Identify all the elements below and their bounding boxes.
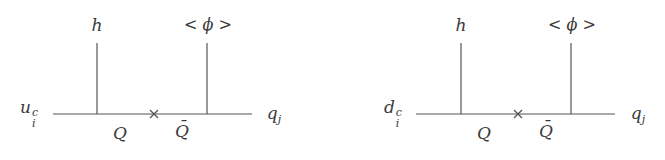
outgoing-base-2: q <box>631 103 642 123</box>
diagram-2-lines <box>416 43 615 118</box>
propagator-Q-1: Q <box>113 125 127 142</box>
vev-label-1: < ϕ > <box>184 17 232 33</box>
higgs-label-1: h <box>92 17 103 34</box>
incoming-base-2: d <box>384 97 395 117</box>
propagator-Q-2: Q <box>477 125 491 142</box>
vev-label-2: < ϕ > <box>548 17 596 33</box>
outgoing-base-1: q <box>267 103 278 123</box>
diagram-1-lines <box>53 43 252 118</box>
outgoing-field-2: qj <box>631 105 645 125</box>
outgoing-field-1: qj <box>267 105 281 125</box>
propagator-Qbar-2: Q̄ <box>539 123 553 140</box>
propagator-Qbar-1: Q̄ <box>175 123 189 140</box>
outgoing-sub-1: j <box>278 113 281 126</box>
incoming-base-1: u <box>20 97 31 117</box>
incoming-sub-1: i <box>32 118 38 129</box>
incoming-sub-2: i <box>396 118 402 129</box>
outgoing-sub-2: j <box>642 113 645 126</box>
higgs-label-2: h <box>456 17 467 34</box>
incoming-field-1: uci <box>20 99 38 129</box>
incoming-field-2: dci <box>384 99 402 129</box>
